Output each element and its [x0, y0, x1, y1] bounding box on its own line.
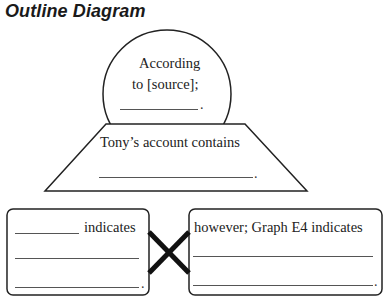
trapezoid-end-punct: .: [254, 167, 258, 181]
trapezoid-line-1: Tony’s account contains: [100, 135, 240, 150]
circle-line-2: to [source];: [132, 77, 198, 92]
right-box-line-1: however; Graph E4 indicates: [194, 220, 363, 235]
left-box-blank-2: [15, 258, 139, 259]
right-box-blank-2: [193, 285, 373, 286]
circle-line-1: According: [139, 56, 200, 71]
right-box-end-punct: .: [374, 275, 378, 289]
left-box-blank-3: [15, 287, 139, 288]
left-box-line-1-suffix: indicates: [84, 220, 136, 235]
circle-end-punct: .: [200, 98, 204, 112]
right-box-blank-1: [193, 256, 373, 257]
left-box-blank-1: [15, 233, 79, 234]
left-box-end-punct: .: [141, 277, 145, 291]
circle-blank-line: [120, 109, 198, 110]
trapezoid-blank-line: [99, 177, 253, 178]
contrast-x-icon: [149, 232, 189, 273]
